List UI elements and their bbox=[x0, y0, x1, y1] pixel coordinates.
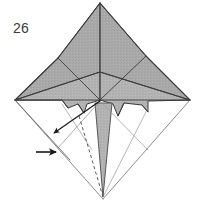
origami-diagram: 26 bbox=[0, 0, 205, 207]
origami-figure bbox=[0, 0, 205, 207]
step-number-label: 26 bbox=[13, 21, 29, 35]
